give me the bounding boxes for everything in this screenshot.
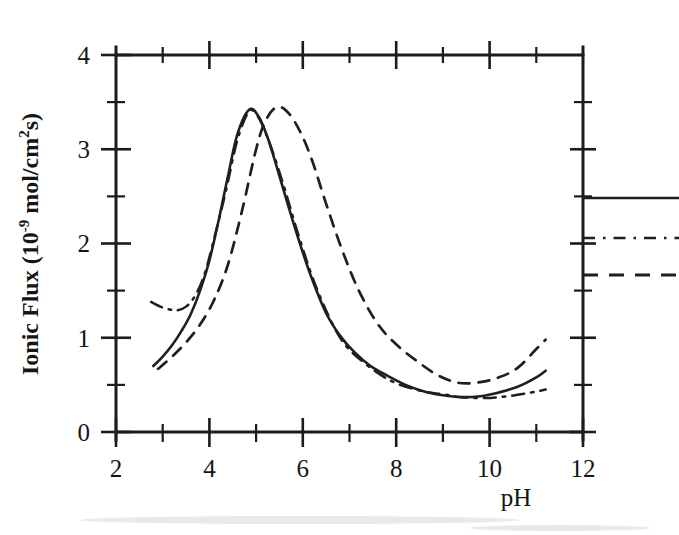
legend	[583, 198, 679, 275]
data-curves	[151, 107, 546, 399]
y-tick-label-1: 1	[78, 325, 91, 352]
scan-artifacts	[80, 516, 650, 531]
x-tick-label-2: 2	[110, 455, 123, 482]
y-axis-title-mid: mol/cm	[17, 138, 43, 220]
y-tick-label-3: 3	[78, 136, 91, 163]
x-tick-label-10: 10	[477, 455, 502, 482]
ionic-flux-ph-line-chart: 4 3 2 1 0 2 4 6 8 10 12 pH Ionic Flux (1…	[0, 0, 679, 535]
x-tick-label-12: 12	[571, 455, 596, 482]
y-axis-title-sup2: 2	[16, 130, 32, 138]
x-tick-label-6: 6	[297, 455, 310, 482]
y-tick-label-0: 0	[78, 419, 91, 446]
series-solid-curve	[153, 109, 545, 397]
chart-figure: 4 3 2 1 0 2 4 6 8 10 12 pH Ionic Flux (1…	[0, 0, 679, 535]
y-tick-label-2: 2	[78, 230, 91, 257]
x-tick-label-8: 8	[390, 455, 403, 482]
y-tick-labels: 4 3 2 1 0	[78, 42, 91, 446]
x-tick-label-4: 4	[203, 455, 216, 482]
y-axis-title-suffix: s)	[17, 113, 43, 130]
y-axis-title-exponent: -9	[16, 220, 32, 233]
series-dashed-curve	[158, 107, 546, 384]
x-tick-labels: 2 4 6 8 10 12	[110, 455, 596, 482]
x-axis-title: pH	[501, 484, 532, 511]
y-axis-title-prefix: Ionic Flux (10	[17, 232, 43, 375]
y-axis-title: Ionic Flux (10-9 mol/cm2s)	[16, 113, 43, 375]
series-dash-dot-curve	[151, 110, 546, 398]
y-tick-label-4: 4	[78, 42, 91, 69]
axes-frame	[116, 47, 583, 440]
svg-text:Ionic Flux (10-9 mol/cm2s): Ionic Flux (10-9 mol/cm2s)	[16, 113, 43, 375]
